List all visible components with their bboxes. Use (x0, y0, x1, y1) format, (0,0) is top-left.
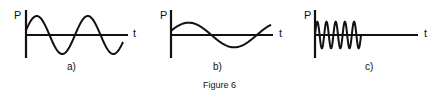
panel-a-caption: a) (67, 61, 76, 72)
panel-a-x-label: t (133, 27, 136, 39)
panel-c-y-label: P (304, 9, 311, 21)
panel-b-x-label: t (279, 27, 282, 39)
panel-c-graph (315, 10, 418, 58)
panel-c-x-label: t (424, 27, 427, 39)
panel-a-y-label: P (14, 9, 21, 21)
panel-c-caption: c) (365, 61, 373, 72)
panel-b-caption: b) (213, 61, 222, 72)
panel-a-graph (26, 10, 128, 58)
figure-caption: Figure 6 (203, 80, 236, 90)
panel-b-graph (171, 10, 273, 58)
panel-b-y-label: P (160, 9, 167, 21)
